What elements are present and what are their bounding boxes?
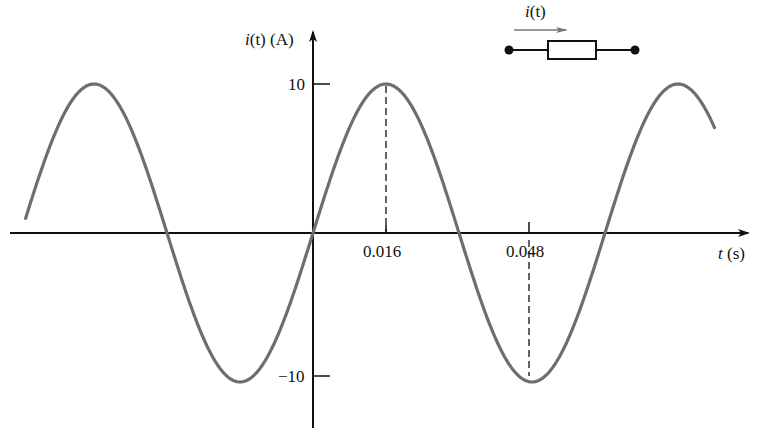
y-tick-label-10: 10 bbox=[288, 75, 305, 94]
resistor-inset: i(t) bbox=[505, 2, 640, 59]
terminal-left-icon bbox=[505, 46, 514, 55]
x-axis-label: t (s) bbox=[718, 244, 745, 263]
y-axis-label: i(t) (A) bbox=[245, 30, 294, 49]
chart-canvas: i(t) (A) 10 −10 0.016 0.048 t (s) i(t) bbox=[0, 0, 757, 444]
y-tick-label-neg10: −10 bbox=[278, 367, 305, 386]
x-tick-label-0048: 0.048 bbox=[506, 242, 544, 261]
resistor-icon bbox=[548, 41, 596, 59]
terminal-right-icon bbox=[631, 46, 640, 55]
inset-current-label: i(t) bbox=[525, 2, 546, 21]
x-tick-label-0016: 0.016 bbox=[363, 242, 401, 261]
